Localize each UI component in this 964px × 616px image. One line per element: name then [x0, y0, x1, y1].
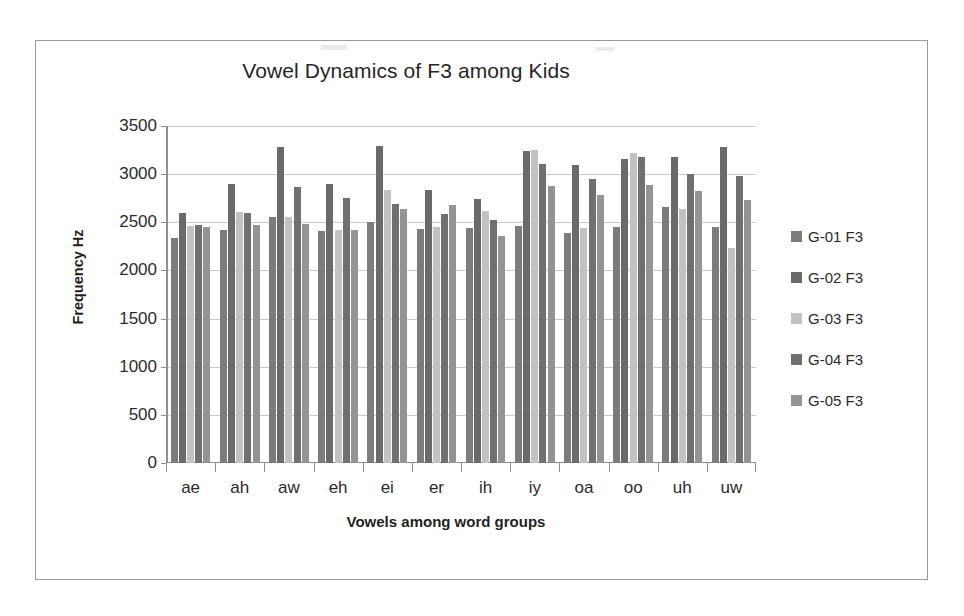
bar	[646, 185, 653, 463]
legend-swatch-icon	[791, 395, 802, 406]
bar-group	[314, 126, 363, 463]
bar	[523, 151, 530, 463]
bar	[433, 227, 440, 463]
y-tick-label: 2500	[119, 212, 157, 232]
bar	[498, 236, 505, 463]
bar	[580, 228, 587, 463]
y-tick-label: 3000	[119, 164, 157, 184]
bar	[392, 204, 399, 463]
bar	[294, 187, 301, 463]
y-tick-label: 1000	[119, 357, 157, 377]
x-tick-cell	[707, 463, 756, 472]
scan-artifact	[596, 47, 614, 51]
bar	[318, 231, 325, 463]
bar	[285, 217, 292, 463]
bar	[621, 159, 628, 463]
bar	[744, 200, 751, 463]
x-axis-label: oa	[559, 478, 608, 498]
x-axis-title: Vowels among word groups	[136, 513, 756, 530]
bar	[572, 165, 579, 463]
bar-group	[510, 126, 559, 463]
bar	[244, 213, 251, 463]
bar	[220, 230, 227, 463]
x-tick-mark	[609, 463, 610, 472]
y-tick-label: 1500	[119, 309, 157, 329]
bar-group	[609, 126, 658, 463]
x-tick-cell	[264, 463, 313, 472]
bar	[662, 207, 669, 463]
bar	[417, 229, 424, 463]
x-axis-label: ih	[461, 478, 510, 498]
x-tick-cell	[412, 463, 461, 472]
x-tick-mark	[363, 463, 364, 472]
x-tick-cell	[166, 463, 215, 472]
y-tick-label: 3500	[119, 116, 157, 136]
bar	[253, 225, 260, 463]
legend-item[interactable]: G-03 F3	[791, 298, 921, 339]
legend-item[interactable]: G-02 F3	[791, 257, 921, 298]
y-tick-label: 2000	[119, 260, 157, 280]
x-tick-mark	[264, 463, 265, 472]
legend-item[interactable]: G-04 F3	[791, 339, 921, 380]
x-axis-labels: aeahaweheierihiyoaoouhuw	[166, 478, 756, 498]
bar	[638, 157, 645, 463]
x-tick-cell	[461, 463, 510, 472]
bar	[351, 230, 358, 463]
bar	[179, 213, 186, 463]
x-axis-label: ae	[166, 478, 215, 498]
bar	[171, 238, 178, 463]
bar	[236, 212, 243, 463]
bar	[687, 174, 694, 463]
bar	[548, 186, 555, 463]
x-tick-cell	[609, 463, 658, 472]
bar	[679, 209, 686, 463]
legend-label: G-01 F3	[808, 228, 863, 245]
bar	[474, 199, 481, 463]
bar	[441, 214, 448, 463]
x-tick-cell	[510, 463, 559, 472]
bar	[187, 226, 194, 463]
legend-item[interactable]: G-05 F3	[791, 380, 921, 421]
scan-artifact	[321, 45, 347, 50]
bar	[425, 190, 432, 463]
x-tick-mark	[755, 463, 756, 472]
legend-label: G-04 F3	[808, 351, 863, 368]
bar	[589, 179, 596, 463]
bar-group	[363, 126, 412, 463]
x-tick-mark	[559, 463, 560, 472]
y-tick-label: 0	[148, 453, 157, 473]
x-axis-label: oo	[609, 478, 658, 498]
bar	[343, 198, 350, 463]
bar	[531, 150, 538, 463]
x-axis-label: iy	[510, 478, 559, 498]
x-tick-cell	[215, 463, 264, 472]
bar-group	[412, 126, 461, 463]
bar	[302, 224, 309, 463]
bar	[376, 146, 383, 463]
legend-item[interactable]: G-01 F3	[791, 216, 921, 257]
legend-label: G-05 F3	[808, 392, 863, 409]
bar	[720, 147, 727, 463]
bar	[728, 248, 735, 463]
bar	[712, 227, 719, 463]
bar	[613, 227, 620, 463]
x-tick-mark	[510, 463, 511, 472]
x-tick-cell	[559, 463, 608, 472]
x-tick-mark	[314, 463, 315, 472]
x-axis-ticks	[166, 463, 756, 472]
bar	[335, 230, 342, 463]
x-tick-mark	[412, 463, 413, 472]
x-tick-cell	[314, 463, 363, 472]
x-tick-cell	[658, 463, 707, 472]
bar	[326, 184, 333, 463]
x-axis-label: uh	[658, 478, 707, 498]
bar	[203, 227, 210, 463]
x-axis-label: ah	[215, 478, 264, 498]
x-tick-mark	[658, 463, 659, 472]
bar	[277, 147, 284, 463]
bar	[515, 226, 522, 463]
bar	[400, 209, 407, 463]
bar	[490, 220, 497, 463]
x-axis-label: eh	[314, 478, 363, 498]
x-tick-cell	[363, 463, 412, 472]
